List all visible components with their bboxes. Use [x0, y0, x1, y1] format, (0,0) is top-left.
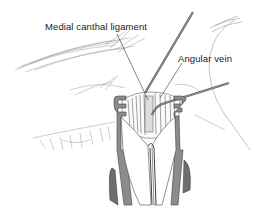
upper-lashes [70, 76, 200, 95]
label-medial-canthal-ligament: Medial canthal ligament [45, 21, 147, 32]
illustration-drawing [0, 0, 255, 224]
eyebrow-hairs [15, 30, 145, 72]
label-angular-vein: Angular vein [178, 53, 232, 64]
right-contour [209, 16, 250, 150]
surgical-illustration: Medial canthal ligament Angular vein [0, 0, 255, 224]
leader-lines [117, 34, 182, 100]
